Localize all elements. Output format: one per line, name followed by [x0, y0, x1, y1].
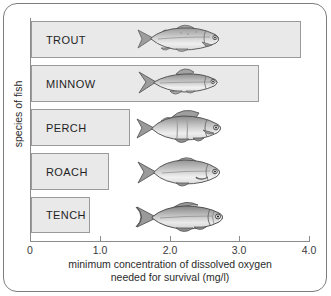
- x-axis-label-line2: needed for survival (mg/l): [30, 271, 310, 284]
- bar-roach: ROACH: [31, 153, 109, 190]
- bar-label-roach: ROACH: [46, 166, 88, 178]
- x-tick-mark-0: [30, 236, 31, 242]
- bar-perch: PERCH: [31, 109, 130, 146]
- x-tick-mark-1: [100, 236, 101, 242]
- bar-label-minnow: MINNOW: [46, 78, 95, 90]
- bar-label-perch: PERCH: [46, 122, 87, 134]
- x-tick-label-0: 0: [27, 244, 33, 256]
- x-axis-label-line1: minimum concentration of dissolved oxyge…: [30, 258, 310, 271]
- bar-tench: TENCH: [31, 197, 90, 233]
- x-tick-mark-2: [170, 236, 171, 242]
- x-tick-mark-4: [309, 236, 310, 242]
- bar-trout: TROUT: [31, 21, 301, 58]
- x-tick-mark-3: [239, 236, 240, 242]
- x-tick-label-2: 2.0: [163, 244, 178, 256]
- x-axis-label: minimum concentration of dissolved oxyge…: [30, 258, 310, 284]
- perch-illustration: [135, 105, 229, 149]
- roach-illustration: [136, 150, 228, 194]
- x-tick-label-3: 3.0: [232, 244, 247, 256]
- tench-illustration: [134, 196, 230, 238]
- fish-oxygen-bar-chart: species of fish 0 1.0 2.0 3.0 4.0 TROUT …: [0, 0, 331, 296]
- bar-minnow: MINNOW: [31, 65, 259, 102]
- bar-label-tench: TENCH: [46, 209, 86, 221]
- bar-label-trout: TROUT: [46, 34, 86, 46]
- y-axis-label: species of fish: [12, 74, 24, 154]
- x-tick-label-4: 4.0: [302, 244, 317, 256]
- plot-area: species of fish 0 1.0 2.0 3.0 4.0 TROUT …: [0, 0, 331, 296]
- x-tick-label-1: 1.0: [93, 244, 108, 256]
